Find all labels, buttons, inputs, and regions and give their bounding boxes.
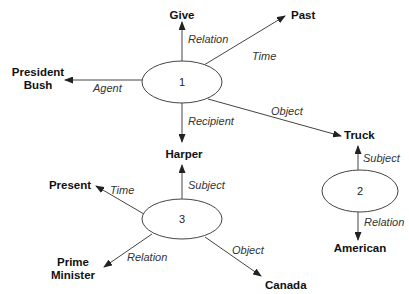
node-president: President [12,66,65,78]
node-give: Give [170,9,195,21]
ellipse-3-label: 3 [179,213,185,225]
label-1-recipient: Recipient [188,115,235,127]
node-harper: Harper [165,148,203,160]
label-3-relation: Relation [127,251,167,263]
node-prime: Prime [57,256,89,268]
label-1-agent: Agent [92,82,123,94]
node-canada: Canada [265,279,307,291]
label-3-object: Object [232,244,265,256]
node-truck: Truck [344,129,375,141]
node-present: Present [49,179,91,191]
edge-3-object [205,237,261,276]
label-2-relation: Relation [364,216,404,228]
ellipse-1-label: 1 [179,76,185,88]
label-1-relation: Relation [188,33,228,45]
node-past: Past [291,9,315,21]
node-bush: Bush [24,79,53,91]
label-1-time: Time [252,50,276,62]
node-american: American [334,242,386,254]
label-1-object: Object [271,105,304,117]
ellipse-2-label: 2 [357,185,363,197]
label-3-time: Time [110,184,134,196]
label-2-subject: Subject [363,152,401,164]
label-3-subject: Subject [188,179,226,191]
node-minister: Minister [51,269,96,281]
semantic-network-diagram: 1 2 3 Give Past President Bush Harper Tr… [0,0,409,294]
